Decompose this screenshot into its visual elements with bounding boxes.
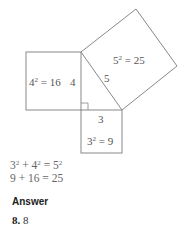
answer-row: 8. 8 — [12, 214, 29, 226]
hypotenuse-square-label: 52 = 25 — [113, 54, 145, 66]
bottom-side-label: 3 — [98, 113, 104, 125]
equation-values: 9 + 16 = 25 — [10, 172, 63, 185]
bottom-square-label: 32 = 9 — [87, 135, 114, 147]
answer-value: 8 — [23, 214, 29, 226]
hypotenuse-side-label: 5 — [104, 72, 110, 84]
left-square-label: 42 = 16 — [29, 76, 61, 88]
pythagorean-diagram: 42 = 16 4 52 = 25 5 3 32 = 9 — [0, 0, 192, 160]
answer-number: 8. — [12, 214, 20, 226]
left-side-label: 4 — [70, 76, 76, 88]
right-angle-marker — [81, 103, 88, 110]
equation-squares: 32 + 42 = 52 — [10, 159, 62, 172]
answer-heading: Answer — [12, 196, 48, 207]
